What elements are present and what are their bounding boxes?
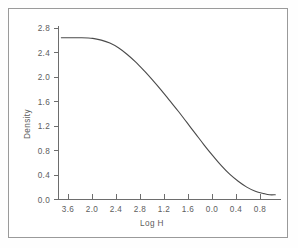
x-tick-label: 0.8 (254, 205, 266, 214)
x-tick-labels: 3.6 2.0 2.4 2.8 1.2 1.6 0.0 0.4 0.8 (62, 205, 266, 214)
y-tick-labels: 2.8 2.4 2.0 1.6 1.2 0.8 0.4 0.0 (38, 24, 50, 205)
x-axis-ticks (68, 194, 260, 200)
x-tick-label: 3.6 (62, 205, 74, 214)
y-tick-label: 1.2 (38, 122, 50, 131)
x-tick-label: 2.0 (86, 205, 98, 214)
figure-container: 2.8 2.4 2.0 1.6 1.2 0.8 0.4 0.0 3.6 2.0 … (0, 0, 298, 248)
x-tick-label: 1.6 (182, 205, 194, 214)
y-tick-label: 0.4 (38, 171, 50, 180)
y-tick-label: 2.8 (38, 24, 50, 33)
y-tick-label: 1.6 (38, 98, 50, 107)
y-axis-ticks (54, 28, 59, 200)
x-tick-label: 2.8 (134, 205, 146, 214)
y-tick-label: 2.0 (38, 73, 50, 82)
x-tick-label: 0.4 (230, 205, 242, 214)
y-axis-title: Density (23, 108, 32, 139)
x-tick-label: 1.2 (158, 205, 170, 214)
y-tick-label: 2.4 (38, 49, 50, 58)
data-curve (61, 38, 275, 195)
chart-plot: 2.8 2.4 2.0 1.6 1.2 0.8 0.4 0.0 3.6 2.0 … (0, 0, 298, 248)
x-tick-label: 0.0 (206, 205, 218, 214)
y-tick-label: 0.0 (38, 196, 50, 205)
x-tick-label: 2.4 (110, 205, 122, 214)
x-axis-title: Log H (140, 219, 164, 228)
y-tick-label: 0.8 (38, 147, 50, 156)
